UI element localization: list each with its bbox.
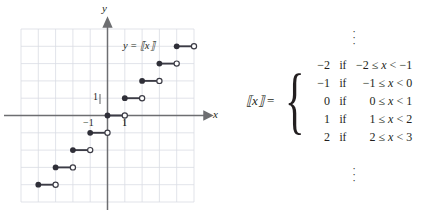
table-row: 0 if 0 ≤ x < 1 <box>306 92 412 110</box>
table-row: −1 if −1 ≤ x < 0 <box>306 74 412 92</box>
table-row: −2 if −2 ≤ x < −1 <box>306 56 412 74</box>
cond-var: x <box>388 130 393 144</box>
curve-label-rhs: ⟦x⟧ <box>140 40 155 51</box>
case-keyword: if <box>330 110 356 128</box>
cond-lo: 1 <box>369 112 375 126</box>
floor-notation: ⟦x⟧ <box>246 93 264 108</box>
cond-lo: −2 <box>356 58 369 72</box>
cond-rel1: ≤ <box>378 94 385 108</box>
cond-lo: −1 <box>363 76 376 90</box>
cond-rel2: < <box>396 130 403 144</box>
piecewise-cases-table: −2 if −2 ≤ x < −1 −1 if −1 ≤ x < 0 0 if … <box>306 56 412 146</box>
case-condition: 0 ≤ x < 1 <box>356 92 412 110</box>
cond-hi: 1 <box>406 94 412 108</box>
vertical-dots-below: · · · <box>349 165 359 183</box>
x-axis-arrow <box>204 112 212 120</box>
curve-label-equals: = <box>128 40 140 51</box>
case-value: 2 <box>306 128 330 146</box>
case-value: −2 <box>306 56 330 74</box>
left-curly-brace: { <box>285 74 305 127</box>
step-function-graph <box>0 0 232 211</box>
x-tick-label-one: 1 <box>122 117 127 128</box>
cond-rel1: ≤ <box>378 130 385 144</box>
cond-hi: −1 <box>399 58 412 72</box>
y-axis-label: y <box>102 2 107 14</box>
y-axis-arrow <box>104 18 112 27</box>
vdot: · <box>349 40 359 46</box>
cond-hi: 2 <box>406 112 412 126</box>
case-condition: −2 ≤ x < −1 <box>356 56 412 74</box>
cond-hi: 0 <box>406 76 412 90</box>
equation-panel: · · · ⟦x⟧ = { −2 if −2 ≤ x < −1 −1 <box>232 0 447 211</box>
equation-left-hand-side: ⟦x⟧ = <box>246 93 279 109</box>
cond-rel2: < <box>396 76 403 90</box>
case-condition: 2 ≤ x < 3 <box>356 128 412 146</box>
case-keyword: if <box>330 56 356 74</box>
cond-var: x <box>388 112 393 126</box>
cond-rel1: ≤ <box>372 58 379 72</box>
floor-function-figure: y x y = ⟦x⟧ 1 1 −1 · · · ⟦x⟧ = { −2 <box>0 0 447 211</box>
case-condition: −1 ≤ x < 0 <box>356 74 412 92</box>
table-row: 2 if 2 ≤ x < 3 <box>306 128 412 146</box>
graph-panel: y x y = ⟦x⟧ 1 1 −1 <box>0 0 232 211</box>
cond-rel2: < <box>396 94 403 108</box>
equals-sign: = <box>267 93 274 108</box>
cond-var: x <box>388 76 393 90</box>
cond-rel1: ≤ <box>378 76 385 90</box>
case-value: −1 <box>306 74 330 92</box>
cond-var: x <box>388 94 393 108</box>
case-keyword: if <box>330 92 356 110</box>
case-value: 0 <box>306 92 330 110</box>
case-keyword: if <box>330 128 356 146</box>
case-keyword: if <box>330 74 356 92</box>
vertical-dots-above: · · · <box>349 28 359 46</box>
case-value: 1 <box>306 110 330 128</box>
cond-rel2: < <box>390 58 397 72</box>
x-tick-label-negative-one: −1 <box>83 117 94 128</box>
cond-lo: 2 <box>369 130 375 144</box>
piecewise-equation: ⟦x⟧ = { −2 if −2 ≤ x < −1 −1 if −1 ≤ x <… <box>246 56 412 146</box>
case-condition: 1 ≤ x < 2 <box>356 110 412 128</box>
cond-lo: 0 <box>369 94 375 108</box>
cond-var: x <box>381 58 386 72</box>
cond-rel1: ≤ <box>378 112 385 126</box>
cond-rel2: < <box>396 112 403 126</box>
table-row: 1 if 1 ≤ x < 2 <box>306 110 412 128</box>
vdot: · <box>349 177 359 183</box>
curve-equation-label: y = ⟦x⟧ <box>123 39 155 51</box>
cond-hi: 3 <box>406 130 412 144</box>
y-tick-label-one: 1 <box>93 91 98 102</box>
x-axis-label: x <box>213 108 218 120</box>
